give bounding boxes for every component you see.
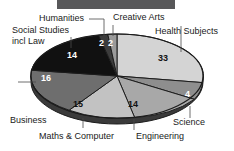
value-engineering: 14 [128, 99, 138, 109]
label-engineering: Engineering [136, 131, 184, 141]
label-science: Science [173, 117, 205, 127]
label-creative-arts: Creative Arts [113, 12, 165, 22]
value-social-studies: 14 [67, 50, 77, 60]
value-maths-computer: 15 [73, 99, 83, 109]
label-social-studies: Social Studies incl Law [12, 25, 78, 46]
pie-chart: 33 4 14 15 16 14 2 2 Humanities Creative… [0, 0, 234, 151]
leader-humanities [89, 19, 104, 36]
label-maths-computer: Maths & Computer [39, 131, 114, 141]
value-science: 4 [185, 89, 190, 99]
value-humanities: 2 [99, 38, 104, 48]
value-creative-arts: 2 [108, 38, 113, 48]
pie-chart-svg [0, 0, 234, 151]
value-health-subjects: 33 [158, 53, 168, 63]
label-humanities: Humanities [39, 13, 84, 23]
chart-screenshot: 33 4 14 15 16 14 2 2 Humanities Creative… [0, 0, 234, 151]
value-business: 16 [41, 73, 51, 83]
label-health-subjects: Health Subjects [155, 26, 218, 36]
label-business: Business [10, 115, 47, 125]
